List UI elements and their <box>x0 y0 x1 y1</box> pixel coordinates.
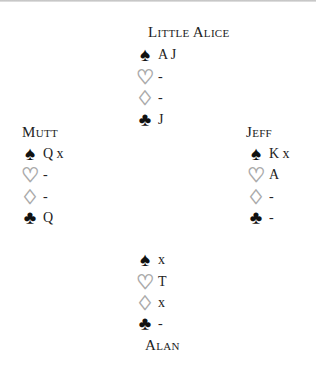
club-icon: ♣ <box>134 110 156 130</box>
spade-icon: ♠ <box>134 250 156 270</box>
club-icon: ♣ <box>134 314 156 334</box>
east-hearts-cards: A <box>269 167 279 183</box>
heart-icon: ♡ <box>134 272 156 292</box>
south-player-name: Alan <box>145 337 180 354</box>
diamond-icon: ♢ <box>134 88 156 108</box>
west-clubs-cards: Q <box>43 210 53 226</box>
east-diamonds-cards: - <box>269 189 274 205</box>
east-player-name: Jeff <box>246 124 272 141</box>
east-clubs-row: ♣ - <box>245 208 274 228</box>
north-clubs-cards: J <box>158 112 163 128</box>
north-diamonds-cards: - <box>158 90 163 106</box>
east-clubs-cards: - <box>269 210 274 226</box>
north-player-name: Little Alice <box>148 24 230 41</box>
north-clubs-row: ♣ J <box>134 110 163 130</box>
diamond-icon: ♢ <box>245 187 267 207</box>
west-hearts-row: ♡ - <box>19 165 48 185</box>
north-spades-row: ♠ A J <box>134 45 176 65</box>
club-icon: ♣ <box>245 208 267 228</box>
east-spades-cards: K x <box>269 146 290 162</box>
south-clubs-row: ♣ - <box>134 314 163 334</box>
heart-icon: ♡ <box>134 67 156 87</box>
heart-icon: ♡ <box>19 165 41 185</box>
north-hearts-row: ♡ - <box>134 67 163 87</box>
top-border <box>0 0 316 2</box>
west-diamonds-cards: - <box>43 189 48 205</box>
east-diamonds-row: ♢ - <box>245 187 274 207</box>
club-icon: ♣ <box>19 208 41 228</box>
south-spades-cards: x <box>158 252 165 268</box>
south-hearts-row: ♡ T <box>134 272 167 292</box>
diamond-icon: ♢ <box>134 293 156 313</box>
west-clubs-row: ♣ Q <box>19 208 53 228</box>
south-spades-row: ♠ x <box>134 250 165 270</box>
diamond-icon: ♢ <box>19 187 41 207</box>
north-hearts-cards: - <box>158 69 163 85</box>
spade-icon: ♠ <box>134 45 156 65</box>
north-diamonds-row: ♢ - <box>134 88 163 108</box>
south-diamonds-row: ♢ x <box>134 293 165 313</box>
south-clubs-cards: - <box>158 316 163 332</box>
west-hearts-cards: - <box>43 167 48 183</box>
spade-icon: ♠ <box>245 144 267 164</box>
south-hearts-cards: T <box>158 274 167 290</box>
south-diamonds-cards: x <box>158 295 165 311</box>
east-spades-row: ♠ K x <box>245 144 290 164</box>
spade-icon: ♠ <box>19 144 41 164</box>
east-hearts-row: ♡ A <box>245 165 279 185</box>
west-spades-row: ♠ Q x <box>19 144 64 164</box>
north-spades-cards: A J <box>158 47 176 63</box>
heart-icon: ♡ <box>245 165 267 185</box>
west-diamonds-row: ♢ - <box>19 187 48 207</box>
west-player-name: Mutt <box>22 124 58 141</box>
west-spades-cards: Q x <box>43 146 64 162</box>
